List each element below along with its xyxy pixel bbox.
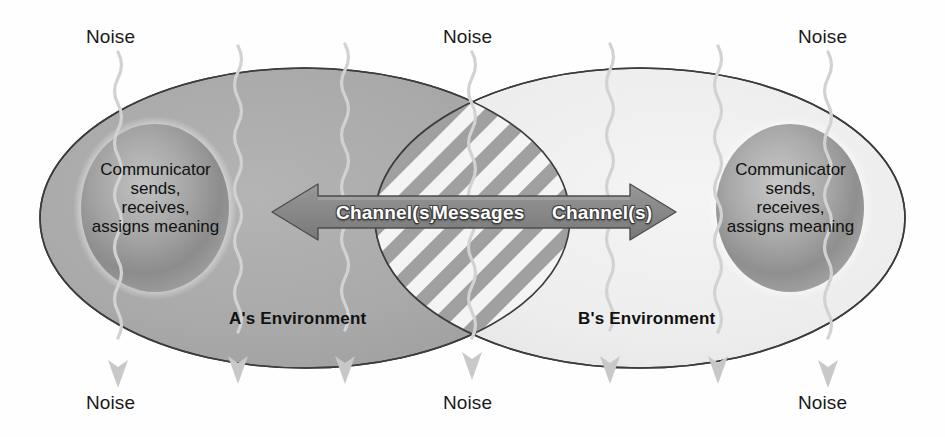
diagram-canvas bbox=[0, 0, 945, 437]
communication-model-diagram: Noise Noise Noise Noise Noise Noise Comm… bbox=[0, 0, 945, 437]
communicator-b-shape bbox=[708, 116, 872, 300]
communicator-a-shape bbox=[73, 116, 237, 300]
